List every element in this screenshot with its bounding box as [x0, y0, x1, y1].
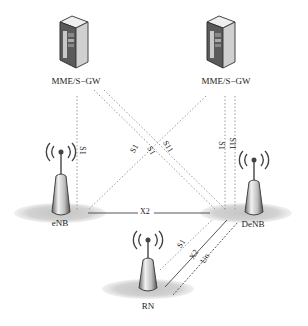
link-label-s1: S1 — [78, 146, 87, 154]
network-diagram: MME/S−GW MME/S−GW eNB DeNB RN S1 S1 S1 S… — [0, 0, 308, 326]
link-label-x2: X2 — [140, 207, 150, 216]
denb-label: DeNB — [242, 219, 265, 229]
rn-label: RN — [142, 301, 155, 311]
enb-label: eNB — [52, 218, 69, 228]
core-links — [77, 90, 235, 270]
server-icon-left — [60, 16, 88, 68]
mme-left-label: MME/S−GW — [51, 76, 100, 86]
link-label-s11: S11 — [228, 137, 237, 149]
link-label-s1: S1 — [217, 141, 226, 149]
server-icon-right — [207, 16, 235, 68]
mme-right-label: MME/S−GW — [201, 76, 250, 86]
